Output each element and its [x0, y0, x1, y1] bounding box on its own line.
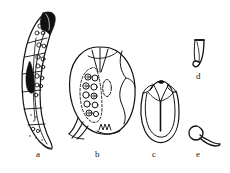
specimen-b-granule-cores — [85, 76, 95, 114]
specimen-b-basal-process-1 — [69, 118, 78, 134]
specimen-e-head — [189, 126, 203, 140]
specimen-b — [69, 47, 135, 139]
specimen-e-tail — [200, 135, 220, 146]
specimen-a-septum-1 — [28, 38, 47, 43]
figure-plate: a b c d e — [0, 0, 230, 173]
specimen-a-septum-2 — [25, 53, 45, 57]
specimen-c-apical-knob — [158, 81, 164, 84]
specimen-a-septum-6 — [28, 124, 45, 125]
specimen-b-lateral-fold — [120, 51, 126, 124]
specimen-e — [189, 126, 220, 146]
specimen-b-central-vacuole — [103, 80, 112, 97]
specimen-b-basal-process-3 — [77, 126, 88, 139]
specimen-d — [193, 40, 204, 67]
specimen-b-apical-lobe-3 — [101, 49, 108, 72]
panel-label-c: c — [152, 150, 156, 159]
specimen-b-granules — [83, 74, 99, 117]
specimen-a — [22, 12, 55, 149]
panel-label-b: b — [95, 150, 100, 159]
specimen-d-median-line — [197, 42, 199, 62]
specimen-a-septum-5 — [24, 108, 42, 109]
specimen-b-basal-teeth — [99, 124, 111, 130]
specimen-d-inner-edge — [194, 40, 195, 61]
specimen-b-apical-lobe-1 — [92, 50, 98, 72]
specimen-c-apical-rib-right — [161, 84, 169, 101]
panel-label-e: e — [196, 150, 200, 159]
specimen-a-inner-wall — [35, 20, 50, 144]
panel-label-d: d — [196, 72, 201, 81]
specimen-c — [141, 81, 179, 143]
panel-label-a: a — [36, 150, 40, 159]
specimen-illustrations — [0, 0, 230, 173]
specimen-a-dark-inclusion — [26, 62, 34, 94]
